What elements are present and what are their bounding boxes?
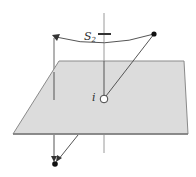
inversion-center [100,95,108,103]
original-point [151,31,156,36]
inversion-center-label: i [92,91,96,104]
inverted-point [52,161,58,167]
rotation-arc [56,34,154,43]
inversion-line-lower [58,135,78,160]
s2-label: S2 [84,30,97,44]
drop-arrowhead-icon [51,156,57,162]
s2-symmetry-diagram: S2 i [0,0,196,177]
